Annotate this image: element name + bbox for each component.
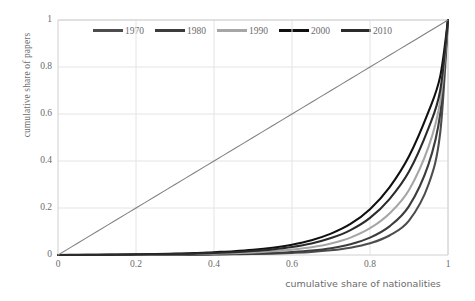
equality-line [58, 20, 448, 255]
lorenz-curve-chart: cumulative share of papers cumulative sh… [0, 0, 475, 301]
plot-area [0, 0, 475, 301]
